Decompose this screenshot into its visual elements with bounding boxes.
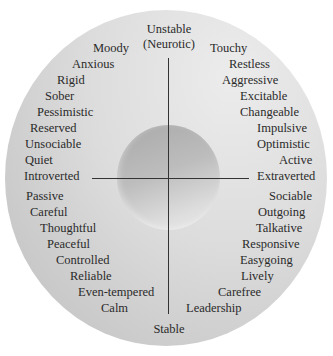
extraversion-axis <box>92 178 249 179</box>
trait-lower-left: Reliable <box>70 269 112 283</box>
label-unstable: Unstable <box>138 22 200 36</box>
trait-upper-left: Quiet <box>25 153 53 167</box>
trait-lower-right: Outgoing <box>258 205 305 219</box>
trait-lower-right: Easygoing <box>240 253 293 267</box>
trait-upper-left: Rigid <box>57 73 85 87</box>
trait-upper-right: Impulsive <box>257 121 307 135</box>
label-neurotic: (Neurotic) <box>138 37 200 51</box>
trait-upper-left: Unsociable <box>25 137 81 151</box>
trait-lower-left: Careful <box>30 205 67 219</box>
trait-lower-left: Passive <box>26 189 64 203</box>
trait-lower-right: Lively <box>241 269 274 283</box>
trait-lower-right: Sociable <box>269 189 312 203</box>
trait-lower-right: Leadership <box>186 301 242 315</box>
label-introverted: Introverted <box>24 169 80 183</box>
trait-lower-left: Peaceful <box>47 237 90 251</box>
trait-upper-left: Pessimistic <box>37 105 93 119</box>
trait-upper-right: Aggressive <box>222 73 278 87</box>
trait-upper-right: Excitable <box>240 89 287 103</box>
trait-upper-right: Changeable <box>240 105 299 119</box>
trait-upper-left: Anxious <box>72 57 114 71</box>
stability-axis <box>168 58 169 314</box>
trait-upper-left: Sober <box>45 89 74 103</box>
trait-lower-right: Carefree <box>218 285 261 299</box>
trait-upper-left: Reserved <box>30 121 77 135</box>
trait-upper-left: Moody <box>93 41 129 55</box>
trait-lower-left: Calm <box>101 301 128 315</box>
trait-upper-right: Optimistic <box>257 137 310 151</box>
trait-lower-left: Controlled <box>56 253 109 267</box>
trait-lower-left: Even-tempered <box>78 285 154 299</box>
trait-upper-right: Active <box>279 153 312 167</box>
trait-lower-left: Thoughtful <box>40 221 96 235</box>
trait-lower-right: Talkative <box>256 221 302 235</box>
label-extraverted: Extraverted <box>257 169 315 183</box>
trait-upper-right: Restless <box>229 57 270 71</box>
label-stable: Stable <box>138 322 200 336</box>
trait-upper-right: Touchy <box>210 41 247 55</box>
trait-lower-right: Responsive <box>242 237 300 251</box>
